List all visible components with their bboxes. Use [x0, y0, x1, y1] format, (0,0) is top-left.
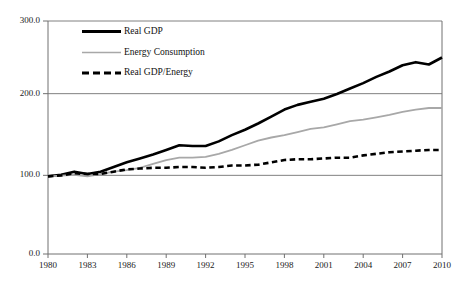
plot-background	[48, 21, 442, 254]
x-tick-label-1995: 1995	[225, 260, 265, 270]
x-tick-label-2001: 2001	[304, 260, 344, 270]
x-tick-label-1980: 1980	[28, 260, 68, 270]
x-tick-label-1998: 1998	[264, 260, 304, 270]
x-tick-label-2010: 2010	[422, 260, 459, 270]
y-tick-label-300: 300.0	[2, 15, 40, 25]
x-axis-ticks	[48, 254, 442, 258]
y-tick-label-0: 0.0	[2, 248, 40, 258]
legend-label-real-gdp: Real GDP	[124, 26, 163, 36]
x-tick-label-2004: 2004	[343, 260, 383, 270]
x-tick-label-1989: 1989	[146, 260, 186, 270]
legend-label-energy-consumption: Energy Consumption	[124, 47, 205, 57]
y-tick-label-200: 200.0	[2, 88, 40, 98]
y-axis-ticks	[43, 21, 48, 254]
x-tick-label-1986: 1986	[107, 260, 147, 270]
y-tick-label-100: 100.0	[2, 169, 40, 179]
legend-label-real-gdp-energy: Real GDP/Energy	[124, 67, 193, 77]
x-tick-label-2007: 2007	[383, 260, 423, 270]
x-tick-label-1983: 1983	[67, 260, 107, 270]
x-tick-label-1992: 1992	[186, 260, 226, 270]
line-chart-plot	[0, 0, 459, 281]
chart-container: 300.0 200.0 100.0 0.0 198019831986198919…	[0, 0, 459, 281]
